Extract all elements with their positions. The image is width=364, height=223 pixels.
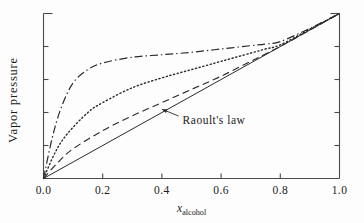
x-axis-tick-label: 1.0 [332, 184, 348, 196]
y-axis-title: Vapor pressure [6, 57, 20, 143]
chart-background [0, 0, 364, 223]
x-axis-tick-label: 0.4 [154, 184, 170, 196]
x-axis-tick-label: 0.6 [213, 184, 229, 196]
annotation-label: Raoult's law [183, 114, 246, 126]
x-axis-tick-label: 0.0 [36, 184, 52, 196]
x-axis-title-subscript: alcohol [182, 208, 207, 217]
x-axis-tick-label: 0.8 [273, 184, 289, 196]
chart-svg: 0.00.20.40.60.81.0 Raoult's law Vapor pr… [0, 0, 364, 223]
x-axis-tick-label: 0.2 [95, 184, 111, 196]
vapor-pressure-chart-figure: 0.00.20.40.60.81.0 Raoult's law Vapor pr… [0, 0, 364, 223]
